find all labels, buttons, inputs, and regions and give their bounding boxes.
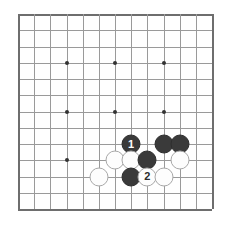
star-point — [65, 110, 69, 114]
stone-white[interactable] — [89, 167, 108, 186]
go-diagram-root: 12 — [0, 0, 228, 225]
grid-line-horizontal — [18, 209, 212, 211]
star-point — [65, 61, 69, 65]
grid-line-vertical — [18, 14, 20, 209]
stone-white[interactable] — [154, 167, 173, 186]
star-point — [113, 110, 117, 114]
stone-move-number: 1 — [128, 138, 134, 149]
grid-line-vertical — [196, 14, 197, 209]
grid-line-vertical — [50, 14, 51, 209]
stone-white[interactable] — [170, 151, 189, 170]
grid-line-vertical — [212, 14, 214, 209]
star-point — [65, 158, 69, 162]
stone-move-number: 2 — [144, 171, 150, 182]
grid-line-vertical — [180, 14, 181, 209]
go-board[interactable]: 12 — [18, 14, 212, 209]
star-point — [162, 61, 166, 65]
grid-line-vertical — [34, 14, 35, 209]
grid-line-vertical — [83, 14, 84, 209]
star-point — [113, 61, 117, 65]
star-point — [162, 110, 166, 114]
